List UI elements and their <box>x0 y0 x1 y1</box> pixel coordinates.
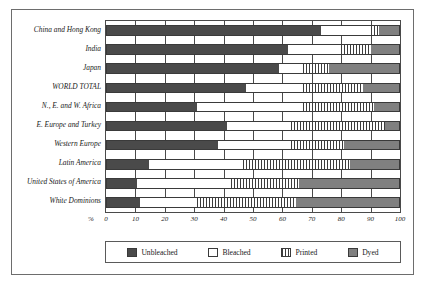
x-tick-label: 50 <box>250 215 257 223</box>
legend-label: Bleached <box>222 248 250 257</box>
bar-segment-dyed <box>350 159 400 170</box>
stacked-bar <box>106 140 401 151</box>
x-tick-label: 90 <box>367 215 374 223</box>
chart-bar-row <box>106 59 401 78</box>
stacked-bar <box>106 63 401 74</box>
stacked-bar <box>106 44 401 55</box>
chart-bar-row <box>106 117 401 136</box>
stacked-bar <box>106 178 401 189</box>
bar-segment-dyed <box>371 44 400 55</box>
category-label: Western Europe <box>1 140 101 147</box>
bar-segment-dyed <box>379 25 400 36</box>
plot-area <box>105 20 401 213</box>
legend-swatch-dyed <box>348 248 358 257</box>
x-tick-label: 70 <box>308 215 315 223</box>
stacked-bar <box>106 121 401 132</box>
bar-segment-bleached <box>140 197 197 208</box>
legend-item: Dyed <box>348 248 378 257</box>
bar-segment-dyed <box>385 121 400 132</box>
category-label: China and Hong Kong <box>1 26 101 33</box>
bar-segment-printed <box>341 44 370 55</box>
bar-segment-bleached <box>288 44 341 55</box>
bar-segment-unbleached <box>106 121 227 132</box>
bar-segment-bleached <box>149 159 243 170</box>
category-label: Japan <box>1 64 101 71</box>
bar-segment-bleached <box>218 140 292 151</box>
bar-segment-bleached <box>279 63 303 74</box>
x-tick-label: 10 <box>132 215 139 223</box>
bar-segment-unbleached <box>106 83 246 94</box>
legend-swatch-bleached <box>208 248 218 257</box>
bar-segment-dyed <box>329 63 400 74</box>
bar-segment-dyed <box>344 140 400 151</box>
chart-bar-row <box>106 78 401 97</box>
bar-segment-printed <box>371 25 380 36</box>
stacked-bar <box>106 25 401 36</box>
bar-segment-printed <box>243 159 350 170</box>
category-label: India <box>1 45 101 52</box>
chart-screenshot: China and Hong KongIndiaJapanWORLD TOTAL… <box>0 0 425 285</box>
stacked-bar <box>106 159 401 170</box>
category-label: White Dominions <box>1 197 101 204</box>
bar-segment-printed <box>291 140 344 151</box>
stacked-bar <box>106 102 401 113</box>
legend-item: Bleached <box>208 248 250 257</box>
x-tick-label: 0 <box>104 215 108 223</box>
stacked-bar <box>106 197 401 208</box>
bar-segment-printed <box>303 102 374 113</box>
chart-bar-row <box>106 21 401 40</box>
category-label: E. Europe and Turkey <box>1 121 101 128</box>
chart-bar-row <box>106 40 401 59</box>
chart-bar-row <box>106 193 401 212</box>
x-tick-label: 60 <box>279 215 286 223</box>
category-label: WORLD TOTAL <box>1 83 101 90</box>
bar-segment-bleached <box>321 25 371 36</box>
stacked-bar <box>106 83 401 94</box>
chart-bar-row <box>106 155 401 174</box>
x-axis-tick-labels: 0102030405060708090100 <box>105 215 401 227</box>
percent-symbol-label: % <box>88 215 94 223</box>
legend-swatch-printed <box>281 248 291 257</box>
bar-segment-dyed <box>374 102 400 113</box>
x-tick-label: 20 <box>161 215 168 223</box>
legend-label: Printed <box>295 248 317 257</box>
chart-legend: UnbleachedBleachedPrintedDyed <box>105 241 401 263</box>
bar-segment-unbleached <box>106 25 321 36</box>
legend-swatch-unbleached <box>127 248 137 257</box>
chart-bar-row <box>106 97 401 116</box>
bar-segment-printed <box>197 197 295 208</box>
category-label: N., E. and W. Africa <box>1 102 101 109</box>
legend-label: Dyed <box>362 248 378 257</box>
bar-segment-printed <box>231 178 299 189</box>
bar-segment-printed <box>291 121 385 132</box>
bar-segment-bleached <box>227 121 292 132</box>
category-axis-labels: China and Hong KongIndiaJapanWORLD TOTAL… <box>0 20 101 213</box>
bar-segment-dyed <box>363 83 400 94</box>
bar-segment-dyed <box>296 197 400 208</box>
chart-bar-row <box>106 136 401 155</box>
bar-segment-unbleached <box>106 63 279 74</box>
legend-item: Printed <box>281 248 317 257</box>
legend-item: Unbleached <box>127 248 177 257</box>
bar-segment-bleached <box>197 102 303 113</box>
legend-label: Unbleached <box>141 248 177 257</box>
category-label: Latin America <box>1 159 101 166</box>
chart-bar-row <box>106 174 401 193</box>
x-tick-label: 40 <box>220 215 227 223</box>
x-tick-label: 30 <box>191 215 198 223</box>
bar-segment-unbleached <box>106 159 149 170</box>
bar-segment-unbleached <box>106 197 140 208</box>
category-label: United States of America <box>1 178 101 185</box>
bar-segment-bleached <box>137 178 231 189</box>
bar-segment-dyed <box>299 178 400 189</box>
x-tick-label: 100 <box>395 215 406 223</box>
bar-segment-printed <box>303 83 363 94</box>
bar-segment-printed <box>303 63 329 74</box>
bar-segment-bleached <box>246 83 303 94</box>
bar-segment-unbleached <box>106 140 218 151</box>
plot-wrapper <box>105 20 401 213</box>
bar-segment-unbleached <box>106 178 137 189</box>
bar-segment-unbleached <box>106 102 197 113</box>
bar-segment-unbleached <box>106 44 288 55</box>
x-tick-label: 80 <box>338 215 345 223</box>
